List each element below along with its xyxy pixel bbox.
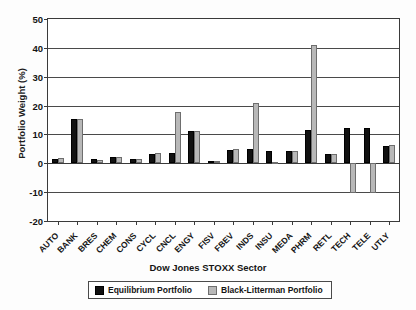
bar-tech-equilibrium (344, 128, 350, 163)
plot-area: 50403020100-10-20 (47, 18, 400, 222)
gridline-40 (48, 48, 399, 49)
y-tick-mark-10 (44, 134, 48, 135)
y-tick-label-0: 0 (38, 158, 43, 169)
legend-item-equilibrium: Equilibrium Portfolio (95, 285, 192, 295)
x-tick-mark-cons (136, 221, 137, 225)
chart-figure: Portfolio Weight (%) 50403020100-10-20 D… (0, 0, 416, 310)
bar-cncl-black-litterman (175, 112, 181, 163)
gridline--10 (48, 192, 399, 193)
bar-inds-black-litterman (253, 103, 259, 163)
x-tick-mark-cncl (175, 221, 176, 225)
x-tick-mark-engy (194, 221, 195, 225)
bar-bank-black-litterman (77, 119, 83, 163)
legend-label-black-litterman: Black-Litterman Portfolio (221, 285, 323, 295)
legend-swatch-equilibrium (95, 286, 104, 295)
y-tick-mark--20 (44, 221, 48, 222)
x-tick-mark-bank (77, 221, 78, 225)
x-tick-mark-retl (331, 221, 332, 225)
y-tick-label-50: 50 (32, 14, 43, 25)
y-tick-mark-20 (44, 106, 48, 107)
x-tick-mark-chem (116, 221, 117, 225)
x-tick-mark-auto (58, 221, 59, 225)
y-tick-label-30: 30 (32, 71, 43, 82)
y-tick-mark-50 (44, 19, 48, 20)
y-tick-mark--10 (44, 192, 48, 193)
bar-cycl-black-litterman (155, 153, 161, 163)
bar-tele-black-litterman (370, 163, 376, 193)
bar-utly-black-litterman (389, 145, 395, 163)
y-tick-mark-0 (44, 163, 48, 164)
y-tick-label--10: -10 (29, 187, 43, 198)
y-tick-label-40: 40 (32, 42, 43, 53)
bar-meda-black-litterman (292, 151, 298, 164)
gridline-30 (48, 77, 399, 78)
x-tick-mark-utly (389, 221, 390, 225)
x-tick-mark-cycl (155, 221, 156, 225)
legend-label-equilibrium: Equilibrium Portfolio (108, 285, 192, 295)
bar-retl-black-litterman (331, 154, 337, 163)
x-tick-mark-bres (97, 221, 98, 225)
y-tick-mark-30 (44, 77, 48, 78)
bar-tech-black-litterman (350, 163, 356, 193)
x-axis-title: Dow Jones STOXX Sector (0, 262, 416, 273)
chart-legend: Equilibrium Portfolio Black-Litterman Po… (88, 281, 332, 299)
bar-engy-black-litterman (194, 131, 200, 163)
x-tick-mark-tech (350, 221, 351, 225)
bar-bres-black-litterman (97, 160, 103, 163)
x-tick-mark-inds (253, 221, 254, 225)
x-tick-mark-fisv (214, 221, 215, 225)
bar-phrm-black-litterman (311, 45, 317, 163)
y-tick-mark-40 (44, 48, 48, 49)
x-tick-mark-fbev (233, 221, 234, 225)
y-tick-label--20: -20 (29, 216, 43, 227)
bar-tele-equilibrium (364, 128, 370, 163)
x-tick-mark-tele (370, 221, 371, 225)
bar-fbev-black-litterman (233, 149, 239, 163)
x-tick-mark-meda (292, 221, 293, 225)
legend-swatch-black-litterman (208, 286, 217, 295)
y-tick-label-20: 20 (32, 100, 43, 111)
bar-chem-black-litterman (116, 157, 122, 163)
bar-fisv-black-litterman (214, 161, 220, 164)
gridline-0 (48, 163, 399, 164)
x-tick-mark-phrm (311, 221, 312, 225)
bar-insu-black-litterman (272, 162, 278, 164)
y-tick-label-10: 10 (32, 129, 43, 140)
gridline-20 (48, 106, 399, 107)
x-tick-mark-insu (272, 221, 273, 225)
legend-item-black-litterman: Black-Litterman Portfolio (208, 285, 323, 295)
y-axis-title: Portfolio Weight (%) (16, 49, 27, 179)
bar-auto-black-litterman (58, 158, 64, 163)
bar-cons-black-litterman (136, 159, 142, 163)
